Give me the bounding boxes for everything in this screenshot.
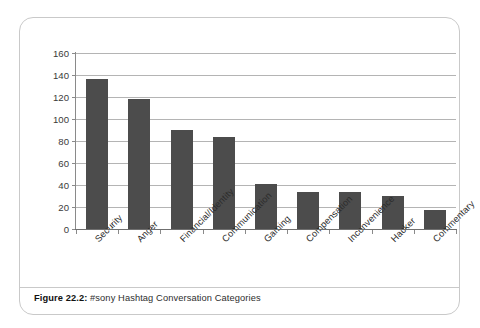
y-axis-tick-label: 140 [53,70,69,81]
figure-container: 020406080100120140160 SecurityAngerFinan… [19,17,460,315]
x-axis-tick-mark [414,230,415,234]
gridline [76,75,456,76]
y-axis-tick-label: 160 [53,48,69,59]
y-axis-tick-label: 80 [58,136,69,147]
x-axis-line [75,229,457,230]
x-axis-tick-mark [160,230,161,234]
chart-plot-area: 020406080100120140160 SecurityAngerFinan… [76,53,456,229]
bar [86,79,108,229]
x-axis-tick-mark [76,230,77,234]
x-axis-tick-mark [118,230,119,234]
y-axis-tick-label: 20 [58,202,69,213]
x-axis-tick-mark [456,230,457,234]
x-axis-tick-mark [287,230,288,234]
y-axis-tick-label: 100 [53,114,69,125]
x-axis-tick-mark [329,230,330,234]
y-axis-tick-label: 40 [58,180,69,191]
y-axis-line [75,52,76,230]
bar [171,130,193,229]
y-axis-tick-label: 60 [58,158,69,169]
bar [128,99,150,229]
figure-caption-label: Figure 22.2: [34,293,87,303]
gridline [76,97,456,98]
figure-caption-text: #sony Hashtag Conversation Categories [87,293,260,303]
figure-caption: Figure 22.2: #sony Hashtag Conversation … [34,293,444,311]
x-axis-tick-mark [372,230,373,234]
x-axis-tick-mark [203,230,204,234]
x-axis-tick-mark [245,230,246,234]
gridline [76,53,456,54]
y-axis-tick-label: 0 [64,224,69,235]
y-axis-tick-label: 120 [53,92,69,103]
bar [213,137,235,229]
caption-divider [19,287,460,288]
